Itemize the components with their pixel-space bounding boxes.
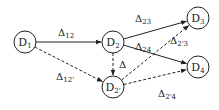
- edge-label-D2p-D4: Δ2'4: [158, 88, 177, 101]
- edge-label-D1-D2: Δ12: [58, 27, 74, 40]
- node-D2: D2: [102, 31, 124, 53]
- edge-label-D1-D2p: Δ12': [56, 71, 74, 84]
- edge-label-D2-D4: Δ24: [135, 41, 152, 54]
- dependency-diagram: D1D2D2'D3D4 Δ12Δ12'ΔΔ23Δ24Δ2'3Δ2'4: [0, 0, 219, 110]
- node-D2p: D2': [102, 76, 124, 98]
- nodes-group: D1D2D2'D3D4: [14, 7, 209, 98]
- node-D3: D3: [187, 7, 209, 29]
- edge-D2p-D4: [124, 70, 187, 85]
- edge-label-D2-D3: Δ23: [135, 13, 151, 26]
- node-D1: D1: [14, 31, 36, 53]
- node-D4: D4: [187, 56, 209, 78]
- edge-label-D2p-D3: Δ2'3: [170, 35, 188, 48]
- edge-label-D2-D2p: Δ: [119, 59, 126, 70]
